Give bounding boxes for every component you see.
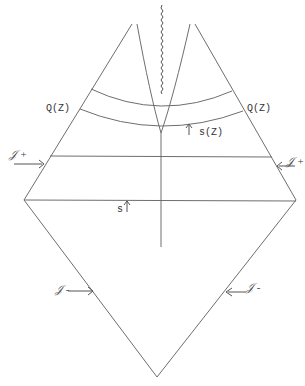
singularity-wavy-line xyxy=(161,5,163,94)
inner-right-curve xyxy=(161,24,190,133)
outer-right-boundary xyxy=(195,24,296,200)
label-scri-minus-right: 𝒥 - xyxy=(245,281,261,294)
label-q-left: Q(Z) xyxy=(46,103,70,114)
arrow-right-icon xyxy=(68,287,93,295)
arrow-up-icon xyxy=(124,201,130,212)
arrow-up-icon xyxy=(186,124,192,135)
arc-lower xyxy=(80,109,243,126)
arrow-left-icon xyxy=(226,288,246,296)
outer-left-boundary xyxy=(24,24,132,200)
arrow-right-icon xyxy=(14,160,44,168)
label-scri-plus-left: 𝒥 + xyxy=(8,148,27,161)
label-q-right: Q(Z) xyxy=(247,103,271,114)
label-scri-minus-left: 𝒥 - xyxy=(54,283,70,296)
label-s: s xyxy=(117,204,123,215)
horizontal-line-scri-plus xyxy=(50,156,272,157)
label-s-tau: s(Z) xyxy=(199,127,223,138)
conformal-diagram: Q(Z) Q(Z) s(Z) s 𝒥 + 𝒥 + 𝒥 - 𝒥 - xyxy=(0,0,305,386)
inner-left-curve xyxy=(137,24,161,133)
horizontal-line-s xyxy=(24,200,296,201)
scri-minus-right-edge xyxy=(157,200,296,377)
